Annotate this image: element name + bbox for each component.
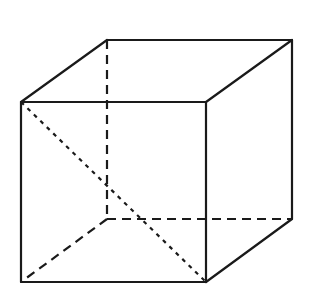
cube-diagram [0,0,310,300]
visible-edge [206,40,292,102]
diagonal-line [21,102,206,282]
face-diagonals [21,102,206,282]
hidden-edge [21,219,107,282]
visible-edges [21,40,292,282]
visible-edge [21,40,107,102]
hidden-edges [21,40,292,282]
visible-edge [206,219,292,282]
